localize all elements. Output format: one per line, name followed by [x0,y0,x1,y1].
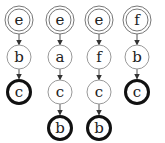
state-node-b: b [7,45,31,69]
state-chain: ebc [5,6,33,104]
state-label: b [94,119,104,137]
state-node-e: e [85,6,113,34]
state-node-c: c [48,80,72,104]
state-node-b: b [49,117,72,140]
state-node-e: e [5,6,33,34]
state-label: b [55,119,65,137]
state-node-a: a [48,45,72,69]
state-node-f: f [87,45,111,69]
state-node-b: b [125,45,149,69]
state-label: c [15,83,23,101]
state-node-c: c [87,80,111,104]
state-node-f: f [123,6,151,34]
state-label: e [95,11,104,29]
state-chain: fbc [123,6,151,104]
state-node-b: b [88,117,111,140]
diagram-canvas: ebceacbefcbfbc [0,0,165,143]
state-label: e [56,11,65,29]
state-label: a [56,48,65,66]
state-chain: eacb [46,6,74,140]
state-node-c: c [8,81,31,104]
state-label: c [56,83,64,101]
state-node-c: c [126,81,149,104]
state-label: b [14,48,24,66]
state-label: e [15,11,24,29]
state-label: b [132,48,142,66]
state-chain: efcb [85,6,113,140]
state-node-e: e [46,6,74,34]
state-label: c [95,83,103,101]
state-label: c [133,83,141,101]
